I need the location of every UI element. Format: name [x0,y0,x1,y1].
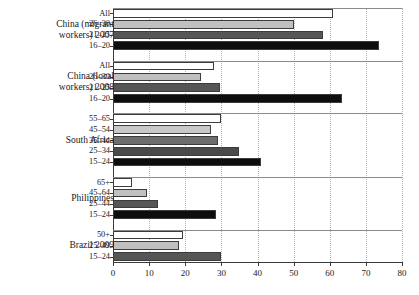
x-axis-tick-label: 60 [315,268,345,278]
x-axis-tick [258,262,259,266]
bar [113,136,218,145]
bar [113,62,214,71]
x-axis-tick-label: 0 [98,268,128,278]
category-tick-label: 45–54 [68,125,110,134]
bar [113,31,323,40]
bar [113,200,158,209]
x-axis-tick-label: 80 [387,268,417,278]
bar [113,231,183,240]
x-axis-tick [185,262,186,266]
category-tick-label: 50+ [68,230,110,239]
category-tick-label: 15–24 [68,157,110,166]
category-tick-label: 65+ [68,178,110,187]
x-axis-tick [294,262,295,266]
category-tick-label: All [68,61,110,70]
x-axis-tick-label: 50 [279,268,309,278]
group-name-label: China (migrant workers) 2007 [0,19,114,41]
category-tick-label: 15–24 [68,210,110,219]
y-axis-tick [110,130,113,131]
y-axis-tick [110,235,113,236]
x-axis-tick-label: 40 [243,268,273,278]
y-axis-tick [110,119,113,120]
y-axis-tick [110,66,113,67]
x-axis-tick [330,262,331,266]
x-axis-tick-label: 20 [170,268,200,278]
bar [113,252,221,261]
y-axis-tick [110,182,113,183]
group-name-label: Philippines [0,193,114,204]
y-axis-tick [110,13,113,14]
bar [113,9,333,18]
bar [113,83,220,92]
x-axis-tick-label: 30 [206,268,236,278]
x-axis-tick [366,262,367,266]
x-axis-tick-label: 10 [134,268,164,278]
bar [113,210,216,219]
category-tick-label: 55–65 [68,114,110,123]
x-axis-tick-label: 70 [351,268,381,278]
y-axis-tick [110,204,113,205]
bar [113,147,239,156]
bar [113,41,379,50]
y-axis-tick [110,99,113,100]
y-axis-tick [110,257,113,258]
category-tick-label: All [68,9,110,18]
y-axis-tick [110,215,113,216]
category-tick-label: 16–20 [68,41,110,50]
bar [113,94,342,103]
x-axis-tick [221,262,222,266]
y-axis-tick [110,162,113,163]
category-tick-label: 15–24 [68,252,110,261]
bar [113,189,147,198]
bar [113,73,201,82]
bar [113,114,221,123]
x-axis-tick [113,262,114,266]
category-tick-label: 25–34 [68,146,110,155]
group-name-label: South Africa [0,135,114,146]
gridline-80 [402,8,404,262]
bar [113,20,294,29]
bar-chart: All26–3021–2516–20All26–3021–2516–2055–6… [0,0,419,295]
bar [113,158,261,167]
x-axis-tick [402,262,403,266]
bar [113,178,132,187]
y-axis-tick [110,46,113,47]
bar [113,125,211,134]
x-axis-tick [149,262,150,266]
group-name-label: China (local workers) 2008 [0,71,114,93]
category-tick-label: 16–20 [68,94,110,103]
group-name-label: Brazil 2009 [0,240,114,251]
bar [113,241,179,250]
y-axis-tick [110,151,113,152]
